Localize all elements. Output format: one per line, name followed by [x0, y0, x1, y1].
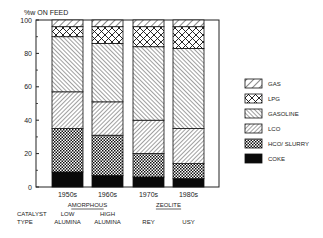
catalyst-type-label: ALUMINA: [94, 219, 121, 225]
bar-segment-gasoline-1950s: [52, 37, 83, 92]
y-tick-label: 100: [20, 17, 32, 24]
y-tick-label: 20: [24, 150, 32, 157]
bar-segment-gasoline-1960s: [92, 43, 123, 101]
bar-segment-gas-1950s: [52, 20, 83, 27]
legend-label: GAS: [268, 81, 281, 87]
bar-segment-hco-slurry-1980s: [173, 164, 204, 179]
legend-swatch: [245, 79, 262, 88]
y-tick-label: 0: [28, 184, 32, 191]
y-tick-label: 40: [24, 117, 32, 124]
legend-label: LPG: [268, 96, 280, 102]
y-axis-label: %w ON FEED: [24, 9, 68, 16]
catalyst-type-label: REY: [142, 219, 154, 225]
legend-label: HCO/ SLURRY: [268, 141, 309, 147]
legend-swatch: [245, 139, 262, 148]
bar-segment-lpg-1980s: [173, 27, 204, 49]
x-tick-label: 1980s: [179, 191, 199, 198]
bar-segment-coke-1950s: [52, 172, 83, 187]
group-label-zeolite: ZEOLITE: [156, 202, 181, 208]
legend-label: COKE: [268, 156, 285, 162]
catalyst-label-line-1: CATALYST: [17, 211, 47, 217]
catalyst-type-label: ALUMINA: [54, 219, 81, 225]
catalyst-type-label: USY: [182, 219, 194, 225]
x-axis: 1950s1960s1970s1980s: [58, 191, 199, 198]
legend-swatch: [245, 109, 262, 118]
bar-segment-gas-1980s: [173, 20, 204, 27]
bar-segment-gas-1960s: [92, 20, 123, 27]
legend-label: GASOLINE: [268, 111, 299, 117]
catalyst-type-label: LOW: [61, 211, 75, 217]
bar-segment-lco-1970s: [133, 120, 164, 153]
bar-segment-gas-1970s: [133, 20, 164, 27]
bar-segment-coke-1980s: [173, 179, 204, 187]
catalyst-type-label: HIGH: [100, 211, 115, 217]
bar-segment-hco-slurry-1960s: [92, 135, 123, 175]
bar-segment-coke-1960s: [92, 175, 123, 187]
x-tick-label: 1950s: [58, 191, 78, 198]
bars: [52, 20, 204, 187]
bar-segment-hco-slurry-1950s: [52, 129, 83, 172]
catalyst-types: LOWALUMINAHIGHALUMINAREYUSY: [54, 211, 195, 225]
plot-area: 020406080100 1950s1960s1970s1980s: [20, 17, 219, 199]
legend-swatch: [245, 154, 262, 163]
legend-swatch: [245, 94, 262, 103]
bar-segment-lpg-1960s: [92, 27, 123, 44]
y-tick-label: 60: [24, 83, 32, 90]
legend-swatch: [245, 124, 262, 133]
bar-segment-lco-1960s: [92, 102, 123, 135]
bar-segment-lco-1980s: [173, 129, 204, 164]
legend-label: LCO: [268, 126, 281, 132]
bar-segment-lpg-1970s: [133, 27, 164, 47]
catalyst-groups: AMORPHOUSZEOLITE: [68, 202, 181, 209]
bar-segment-hco-slurry-1970s: [133, 154, 164, 177]
bar-segment-lco-1950s: [52, 92, 83, 129]
stacked-bar-chart: %w ON FEED 020406080100 1950s1960s1970s1…: [0, 0, 323, 238]
bar-segment-coke-1970s: [133, 177, 164, 187]
x-tick-label: 1960s: [98, 191, 118, 198]
bar-segment-lpg-1950s: [52, 27, 83, 37]
group-label-amorphous: AMORPHOUS: [68, 202, 107, 208]
bar-segment-gasoline-1980s: [173, 48, 204, 128]
y-tick-label: 80: [24, 50, 32, 57]
x-tick-label: 1970s: [139, 191, 159, 198]
catalyst-label-line-2: TYPE: [17, 219, 33, 225]
bar-segment-gasoline-1970s: [133, 47, 164, 120]
legend: GASLPGGASOLINELCOHCO/ SLURRYCOKE: [245, 79, 309, 163]
